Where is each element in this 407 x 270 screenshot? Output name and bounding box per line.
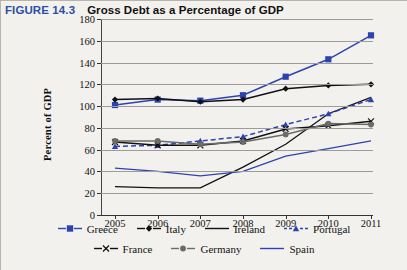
legend-item-greece[interactable]: Greece (57, 223, 118, 235)
legend-label: France (123, 243, 153, 255)
legend-swatch-germany (170, 243, 196, 254)
figure-page: FIGURE 14.3 Gross Debt as a Percentage o… (0, 0, 407, 270)
legend-label: Spain (289, 243, 314, 255)
legend-label: Italy (166, 223, 186, 235)
y-tick-label: 100 (79, 101, 95, 112)
legend-item-germany[interactable]: Germany (170, 243, 241, 255)
data-point (240, 139, 246, 145)
y-tick-mark (97, 106, 101, 107)
y-tick-label: 180 (79, 14, 95, 25)
legend-swatch-italy (136, 223, 162, 234)
legend-label: Ireland (234, 223, 265, 235)
series-lines (101, 19, 373, 215)
legend-row-2: FranceGermanySpain (0, 240, 407, 257)
legend-swatch-portugal (283, 223, 309, 234)
y-tick-label: 40 (85, 166, 96, 177)
data-point (112, 138, 118, 144)
data-point (325, 82, 331, 88)
data-point (368, 96, 374, 102)
legend-item-italy[interactable]: Italy (136, 223, 186, 235)
data-point (197, 141, 203, 147)
legend-swatch-ireland (204, 223, 230, 234)
gridline (101, 84, 373, 85)
legend-item-portugal[interactable]: Portugal (283, 223, 350, 235)
data-point (112, 96, 118, 102)
y-axis-tick-labels: 180160140120100806040200 (56, 19, 98, 215)
chart-area: Percent of GDP 180160140120100806040200 … (0, 19, 407, 215)
gridline (101, 63, 373, 64)
gridline (101, 19, 373, 20)
legend-swatch-greece (57, 223, 83, 234)
legend-item-ireland[interactable]: Ireland (204, 223, 265, 235)
data-point (155, 138, 161, 144)
y-axis-label: Percent of GDP (42, 69, 56, 179)
legend-label: Portugal (313, 223, 350, 235)
data-point (325, 121, 331, 127)
figure-number: FIGURE 14.3 (5, 4, 75, 16)
gridline (101, 193, 373, 194)
legend-item-spain[interactable]: Spain (259, 243, 314, 255)
data-point (368, 32, 374, 38)
y-tick-label: 160 (79, 35, 95, 46)
y-tick-mark (97, 150, 101, 151)
y-tick-label: 60 (85, 144, 96, 155)
data-point (112, 102, 118, 108)
legend-swatch-france (93, 243, 119, 254)
data-point (368, 122, 374, 128)
figure-header: FIGURE 14.3 Gross Debt as a Percentage o… (0, 0, 407, 19)
y-tick-mark (97, 41, 101, 42)
legend-label: Greece (87, 223, 118, 235)
y-tick-mark (97, 128, 101, 129)
data-point (283, 86, 289, 92)
data-point (325, 56, 331, 62)
gridline (101, 171, 373, 172)
y-tick-mark (97, 19, 101, 20)
gridline (101, 150, 373, 151)
legend-row-1: GreeceItalyIrelandPortugal (0, 220, 407, 237)
gridline (101, 106, 373, 107)
plot-region (101, 19, 373, 215)
legend-label: Germany (200, 243, 241, 255)
y-tick-mark (97, 193, 101, 194)
data-point (283, 74, 289, 80)
gridline (101, 128, 373, 129)
y-tick-mark (97, 63, 101, 64)
data-point (283, 132, 289, 138)
chart-legend: GreeceItalyIrelandPortugal FranceGermany… (0, 218, 407, 262)
legend-swatch-spain (259, 243, 285, 254)
figure-title: Gross Debt as a Percentage of GDP (87, 4, 284, 16)
y-tick-label: 120 (79, 79, 95, 90)
y-tick-label: 140 (79, 57, 95, 68)
y-tick-label: 20 (85, 188, 96, 199)
legend-item-france[interactable]: France (93, 243, 153, 255)
y-tick-mark (97, 84, 101, 85)
y-tick-label: 80 (85, 122, 96, 133)
gridline (101, 41, 373, 42)
y-tick-mark (97, 171, 101, 172)
